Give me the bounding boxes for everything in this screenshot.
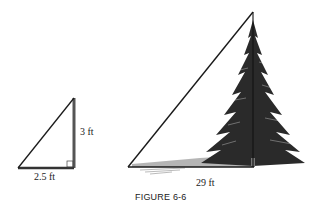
figure-caption: FIGURE 6-6 bbox=[135, 192, 187, 202]
small-base-label: 2.5 ft bbox=[34, 171, 55, 182]
small-height-label: 3 ft bbox=[80, 126, 94, 137]
small-hypotenuse bbox=[18, 98, 74, 168]
right-angle-marker-icon bbox=[67, 161, 73, 167]
small-triangle bbox=[18, 98, 74, 168]
similar-triangles-figure: 3 ft 2.5 ft 29 ft FIGURE 6-6 bbox=[0, 0, 321, 216]
figure-drawing bbox=[0, 0, 321, 216]
large-base-label: 29 ft bbox=[196, 177, 215, 188]
